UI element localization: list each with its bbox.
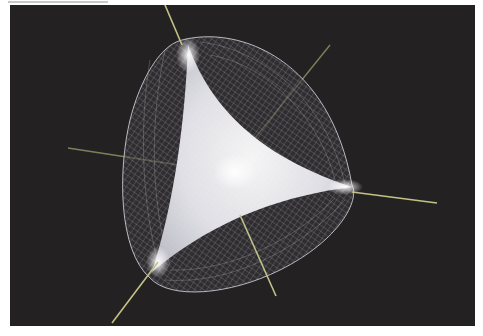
surface-plot [10, 5, 475, 326]
render-panel [10, 5, 475, 326]
